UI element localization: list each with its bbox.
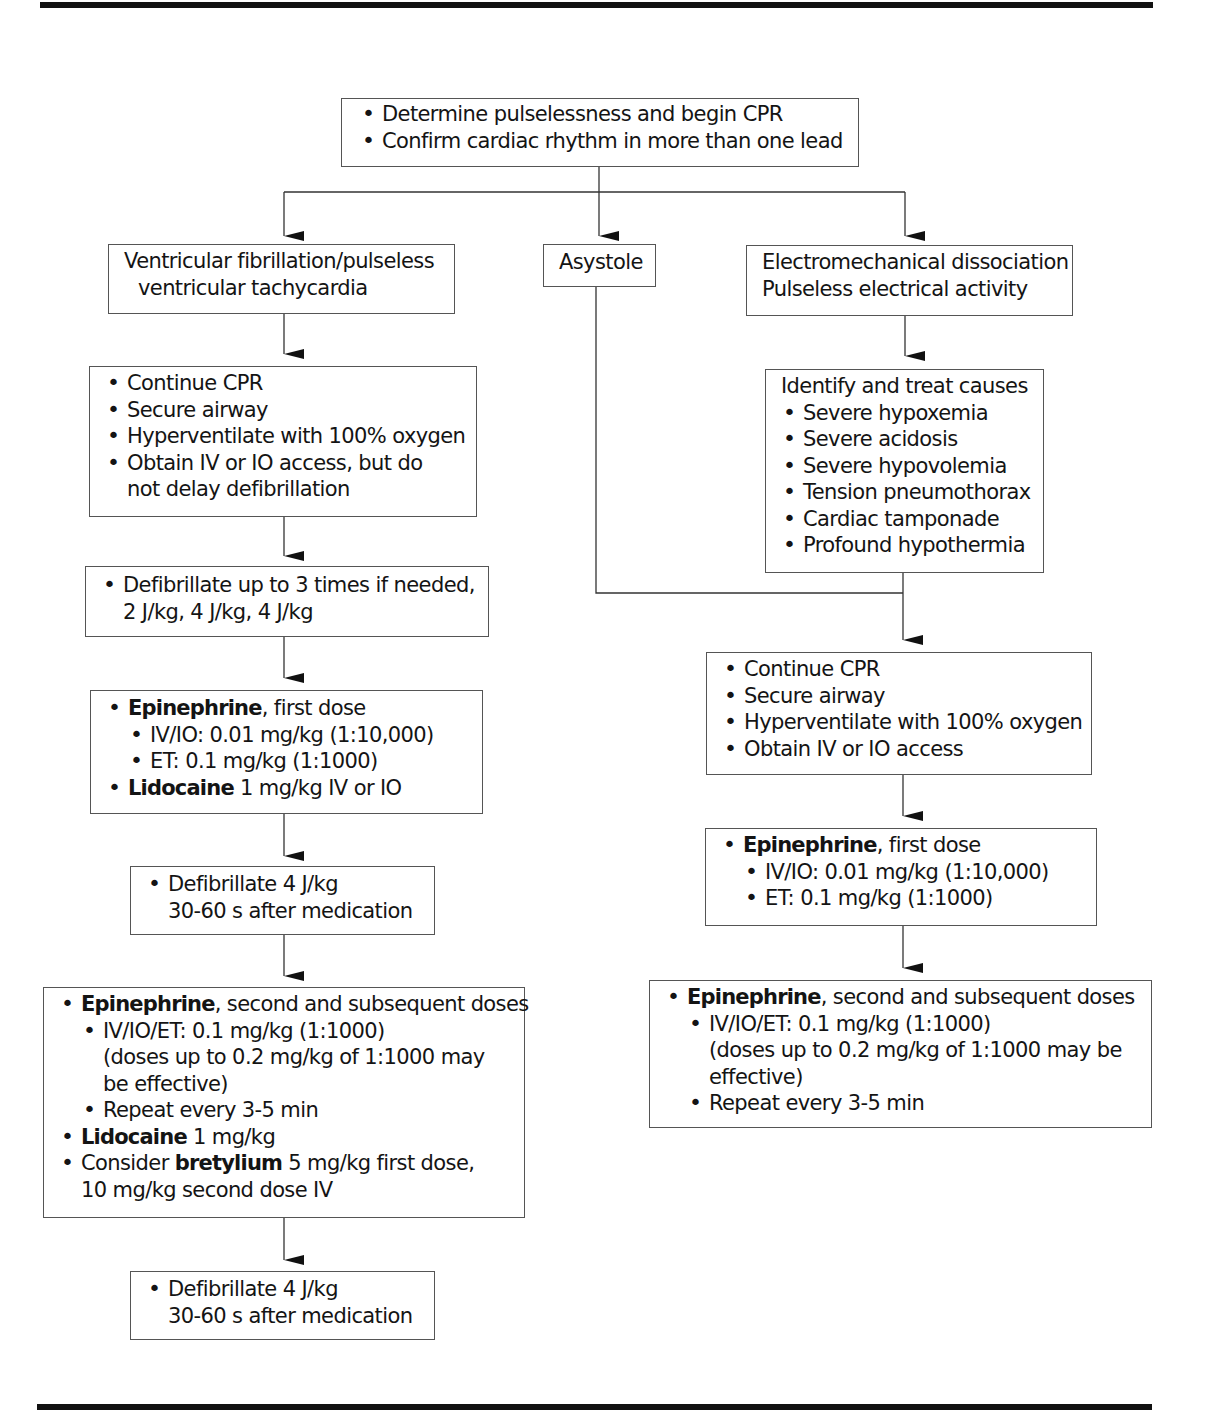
pea-header-line: Pulseless electrical activity — [762, 276, 1072, 303]
vf-header-line: ventricular tachycardia — [124, 275, 454, 302]
vf-header-line: Ventricular fibrillation/pulseless — [124, 248, 454, 275]
drug-name: Lidocaine — [81, 1125, 187, 1149]
care-item: Hyperventilate with 100% oxygen — [722, 709, 1091, 736]
start-item: Determine pulselessness and begin CPR — [360, 101, 858, 128]
epinephrine-item: Epinephrine, first dose — [106, 695, 482, 722]
dose-route-item: ET: 0.1 mg/kg (1:1000) — [721, 885, 1096, 912]
care-item: Secure airway — [105, 397, 476, 424]
pea-header-line: Electromechanical dissociation — [762, 249, 1072, 276]
epinephrine-item: Epinephrine, first dose — [721, 832, 1096, 859]
defib-item: Defibrillate 4 J/kg — [146, 1276, 434, 1303]
dose-route-item: IV/IO: 0.01 mg/kg (1:10,000) — [721, 859, 1096, 886]
drug-name: Epinephrine — [687, 985, 821, 1009]
cause-item: Severe hypoxemia — [781, 400, 1043, 427]
asystole-header-label: Asystole — [559, 249, 655, 276]
defib-item-continued: 30-60 s after medication — [146, 1303, 434, 1330]
dose-note: effective) — [665, 1064, 1151, 1091]
vf-step-epinephrine-subsequent: Epinephrine, second and subsequent doses… — [43, 987, 525, 1218]
care-item-continued: not delay defibrillation — [105, 476, 476, 503]
causes-title: Identify and treat causes — [781, 373, 1043, 400]
cause-item: Severe hypovolemia — [781, 453, 1043, 480]
care-item: Secure airway — [722, 683, 1091, 710]
drug-name: bretylium — [175, 1151, 282, 1175]
repeat-item: Repeat every 3-5 min — [59, 1097, 524, 1124]
start-item: Confirm cardiac rhythm in more than one … — [360, 128, 858, 155]
cause-item: Cardiac tamponade — [781, 506, 1043, 533]
vf-step-initial-care: Continue CPR Secure airway Hyperventilat… — [89, 366, 477, 517]
drug-name: Lidocaine — [128, 776, 234, 800]
defib-item: Defibrillate up to 3 times if needed, — [101, 572, 488, 599]
defib-item: Defibrillate 4 J/kg — [146, 871, 434, 898]
care-item: Continue CPR — [105, 370, 476, 397]
cause-item: Tension pneumothorax — [781, 479, 1043, 506]
vf-step-defibrillate-3x: Defibrillate up to 3 times if needed, 2 … — [85, 566, 489, 637]
bretylium-item-continued: 10 mg/kg second dose IV — [59, 1177, 524, 1204]
merged-step-epinephrine-subsequent: Epinephrine, second and subsequent doses… — [649, 980, 1152, 1128]
bretylium-item: Consider bretylium 5 mg/kg first dose, — [59, 1150, 524, 1177]
defib-item-continued: 30-60 s after medication — [146, 898, 434, 925]
start-box: Determine pulselessness and begin CPR Co… — [341, 98, 859, 167]
dose-route-item: ET: 0.1 mg/kg (1:1000) — [106, 748, 482, 775]
lidocaine-item: Lidocaine 1 mg/kg — [59, 1124, 524, 1151]
epinephrine-item: Epinephrine, second and subsequent doses — [59, 991, 524, 1018]
defib-item-continued: 2 J/kg, 4 J/kg, 4 J/kg — [101, 599, 488, 626]
dose-note: (doses up to 0.2 mg/kg of 1:1000 may be — [665, 1037, 1151, 1064]
drug-name: Epinephrine — [81, 992, 215, 1016]
dose-note: be effective) — [59, 1071, 524, 1098]
dose-route-item: IV/IO: 0.01 mg/kg (1:10,000) — [106, 722, 482, 749]
dose-route-item: IV/IO/ET: 0.1 mg/kg (1:1000) — [665, 1011, 1151, 1038]
dose-route-item: IV/IO/ET: 0.1 mg/kg (1:1000) — [59, 1018, 524, 1045]
asystole-header-box: Asystole — [543, 244, 656, 287]
cause-item: Severe acidosis — [781, 426, 1043, 453]
care-item: Obtain IV or IO access, but do — [105, 450, 476, 477]
cause-item: Profound hypothermia — [781, 532, 1043, 559]
merged-step-epinephrine-first: Epinephrine, first dose IV/IO: 0.01 mg/k… — [705, 828, 1097, 926]
lidocaine-item: Lidocaine 1 mg/kg IV or IO — [106, 775, 482, 802]
care-item: Continue CPR — [722, 656, 1091, 683]
drug-name: Epinephrine — [128, 696, 262, 720]
vf-step-defibrillate-final: Defibrillate 4 J/kg 30-60 s after medica… — [130, 1271, 435, 1340]
vf-step-defibrillate-after-med: Defibrillate 4 J/kg 30-60 s after medica… — [130, 866, 435, 935]
pea-header-box: Electromechanical dissociation Pulseless… — [746, 245, 1073, 316]
vf-step-epinephrine-first: Epinephrine, first dose IV/IO: 0.01 mg/k… — [90, 690, 483, 814]
care-item: Hyperventilate with 100% oxygen — [105, 423, 476, 450]
care-item: Obtain IV or IO access — [722, 736, 1091, 763]
merged-step-initial-care: Continue CPR Secure airway Hyperventilat… — [706, 652, 1092, 775]
vf-header-box: Ventricular fibrillation/pulseless ventr… — [108, 244, 455, 314]
dose-note: (doses up to 0.2 mg/kg of 1:1000 may — [59, 1044, 524, 1071]
drug-name: Epinephrine — [743, 833, 877, 857]
repeat-item: Repeat every 3-5 min — [665, 1090, 1151, 1117]
pea-causes-box: Identify and treat causes Severe hypoxem… — [765, 369, 1044, 573]
epinephrine-item: Epinephrine, second and subsequent doses — [665, 984, 1151, 1011]
